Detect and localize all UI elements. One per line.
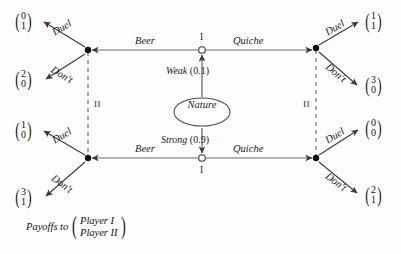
paren-close: ) [377, 77, 381, 94]
payoff-legend-text: Payoffs to [26, 221, 68, 232]
receiver-node-bottom-left [85, 155, 91, 161]
nature-weak-label: Weak (0.1) [166, 66, 209, 76]
payoff-player-two: 1 [371, 21, 376, 31]
move-label-beer-top: Beer [135, 36, 155, 47]
paren-open: ( [15, 71, 19, 88]
nature-strong-probability: (0.9) [190, 134, 209, 145]
paren-open: ( [365, 187, 369, 204]
payoff-top-left-duel: ( 0 1 ) [14, 11, 33, 31]
paren-open: ( [365, 77, 369, 94]
payoff-player-two: 1 [21, 21, 26, 31]
paren-close: ) [27, 189, 31, 206]
paren-open: ( [365, 13, 369, 30]
player-mark-sender-bottom: I [200, 166, 203, 176]
payoff-bottom-left-duel: ( 1 0 ) [14, 120, 33, 140]
payoff-player-two: 0 [371, 85, 376, 95]
nature-weak-probability: (0.1) [190, 65, 209, 76]
paren-close: ) [27, 13, 31, 30]
receiver-node-bottom-right [313, 155, 319, 161]
payoff-top-right-dont: ( 3 0 ) [364, 75, 383, 95]
payoff-legend: Payoffs to ( Player I Player II ) [26, 215, 127, 238]
nature-strong-text: Strong [161, 134, 187, 145]
payoff-player-two: 0 [21, 79, 26, 89]
move-label-quiche-bottom: Quiche [233, 144, 263, 155]
receiver-node-top-left [85, 47, 91, 53]
payoff-bottom-right-duel: ( 0 0 ) [364, 118, 383, 138]
payoff-player-two: 0 [21, 130, 26, 140]
move-label-beer-bottom: Beer [135, 144, 155, 155]
paren-close: ) [27, 122, 31, 139]
sender-node-top [199, 47, 206, 54]
paren-close: ) [377, 187, 381, 204]
legend-player-two: Player II [80, 227, 118, 239]
paren-close: ) [27, 71, 31, 88]
paren-open: ( [365, 120, 369, 137]
paren-open: ( [72, 216, 77, 237]
paren-open: ( [15, 189, 19, 206]
paren-close: ) [377, 120, 381, 137]
player-mark-receiver-right: II [303, 100, 310, 109]
nature-weak-text: Weak [166, 65, 187, 76]
payoff-bottom-left-dont: ( 3 1 ) [14, 187, 33, 207]
player-mark-sender-top: I [200, 33, 203, 43]
paren-close: ) [121, 216, 126, 237]
receiver-node-top-right [313, 45, 319, 51]
nature-node-label: Nature [178, 99, 226, 110]
game-tree-figure: Nature Weak (0.1) Strong (0.9) I I II II… [0, 0, 401, 254]
paren-open: ( [15, 122, 19, 139]
player-mark-receiver-left: II [94, 100, 101, 109]
payoff-top-left-dont: ( 2 0 ) [14, 69, 33, 89]
move-label-quiche-top: Quiche [233, 36, 263, 47]
payoff-top-right-duel: ( 1 1 ) [364, 11, 383, 31]
legend-player-one: Player I [80, 215, 118, 227]
payoff-player-two: 1 [21, 197, 26, 207]
nature-strong-label: Strong (0.9) [161, 135, 209, 145]
paren-close: ) [377, 13, 381, 30]
paren-open: ( [15, 13, 19, 30]
payoff-player-two: 0 [371, 128, 376, 138]
payoff-player-two: 1 [371, 195, 376, 205]
payoff-bottom-right-dont: ( 2 1 ) [364, 185, 383, 205]
sender-node-bottom [199, 155, 206, 162]
